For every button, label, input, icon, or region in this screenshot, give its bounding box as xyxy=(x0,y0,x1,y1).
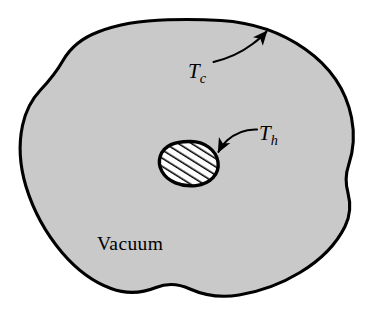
cold-surface-label-subscript: c xyxy=(200,70,207,86)
hot-body-label-subscript: h xyxy=(271,132,278,148)
figure-canvas: Tc Th Vacuum xyxy=(0,0,370,321)
vacuum-enclosure-diagram: Tc Th Vacuum xyxy=(0,0,370,321)
hot-inner-body xyxy=(159,141,218,185)
vacuum-region-label: Vacuum xyxy=(97,233,163,254)
